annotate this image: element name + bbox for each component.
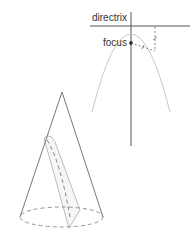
conic-diagram: directrix focus xyxy=(0,0,194,240)
cone-base xyxy=(20,207,103,227)
cutting-plane xyxy=(44,136,80,228)
cone-figure xyxy=(20,92,103,228)
directrix-label: directrix xyxy=(92,12,127,23)
parabola-figure: directrix focus xyxy=(90,12,190,146)
focus-label: focus xyxy=(103,37,127,48)
